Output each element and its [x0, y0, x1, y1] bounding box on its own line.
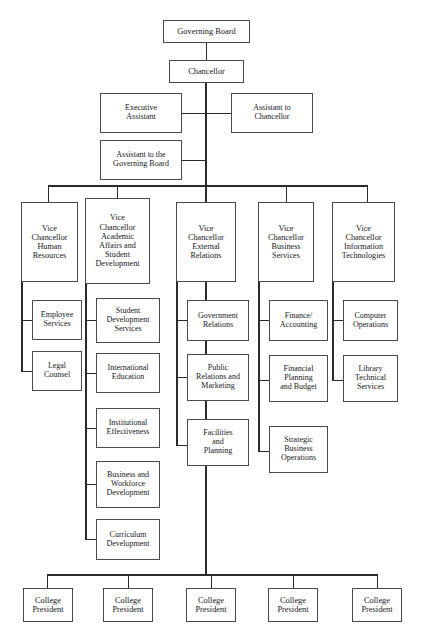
edge-college-bus: [47, 574, 378, 576]
node-college-president-5[interactable]: College President: [352, 588, 402, 622]
node-dept-computer-operations[interactable]: Computer Operations: [343, 300, 398, 341]
edge-drop-business: [286, 185, 287, 202]
node-dept-legal-counsel[interactable]: Legal Counsel: [32, 351, 82, 391]
edge-drop-hr: [48, 185, 49, 202]
edge-stub-hr-2: [21, 371, 32, 372]
edge-drop-college-5: [377, 574, 378, 588]
node-chancellor[interactable]: Chancellor: [169, 60, 244, 83]
node-dept-curriculum-development[interactable]: Curriculum Development: [96, 519, 160, 560]
node-college-president-2[interactable]: College President: [103, 588, 153, 622]
edge-assistant-to-chancellor: [206, 113, 231, 114]
node-vc-business-services[interactable]: Vice Chancellor Business Services: [258, 202, 314, 282]
edge-stub-it-1: [332, 320, 343, 321]
edge-stub-hr-1: [21, 320, 32, 321]
node-governing-board[interactable]: Governing Board: [163, 20, 250, 43]
node-assistant-to-chancellor[interactable]: Assistant to Chancellor: [231, 93, 313, 133]
node-dept-government-relations[interactable]: Government Relations: [187, 300, 249, 341]
edge-spine-external: [176, 282, 178, 446]
node-dept-finance-accounting[interactable]: Finance/ Accounting: [269, 300, 328, 341]
edge-stub-academic-2: [85, 373, 96, 374]
node-dept-public-relations-marketing[interactable]: Public Relations and Marketing: [187, 354, 249, 401]
node-dept-facilities-planning[interactable]: Facilities and Planning: [187, 419, 249, 466]
edge-board-to-chancellor: [206, 43, 207, 60]
edge-spine-hr: [21, 282, 23, 372]
edge-drop-academic: [117, 185, 118, 198]
edge-drop-college-2: [128, 574, 129, 588]
org-chart-canvas: Governing Board Chancellor Executive Ass…: [0, 0, 421, 638]
node-dept-institutional-effectiveness[interactable]: Institutional Effectiveness: [96, 408, 160, 448]
edge-spine-academic: [85, 284, 87, 540]
edge-stub-external-3: [176, 445, 187, 446]
edge-stub-business-2: [258, 380, 269, 381]
node-dept-student-development-services[interactable]: Student Development Services: [96, 298, 160, 343]
edge-drop-college-3: [211, 574, 212, 588]
edge-exec-assistant: [182, 113, 206, 114]
edge-drop-college-1: [47, 574, 48, 588]
node-dept-international-education[interactable]: International Education: [96, 353, 160, 393]
node-dept-strategic-business-operations[interactable]: Strategic Business Operations: [269, 426, 328, 473]
edge-stub-academic-4: [85, 484, 96, 485]
edge-spine-it: [332, 282, 334, 381]
node-dept-employee-services[interactable]: Employee Services: [32, 300, 82, 340]
edge-assistant-governing-board: [182, 160, 206, 161]
node-vc-human-resources[interactable]: Vice Chancellor Human Resources: [21, 202, 78, 282]
node-college-president-4[interactable]: College President: [268, 588, 318, 622]
edge-spine-business: [258, 282, 260, 452]
node-dept-financial-planning-budget[interactable]: Financial Planning and Budget: [269, 355, 328, 402]
node-dept-business-workforce-development[interactable]: Business and Workforce Development: [96, 461, 160, 508]
edge-drop-it: [367, 185, 368, 202]
node-vc-information-technologies[interactable]: Vice Chancellor Information Technologies: [332, 202, 395, 282]
node-executive-assistant[interactable]: Executive Assistant: [100, 93, 182, 133]
node-dept-library-technical-services[interactable]: Library Technical Services: [343, 355, 398, 402]
edge-stub-academic-5: [85, 539, 96, 540]
edge-stub-academic-3: [85, 428, 96, 429]
edge-stub-business-1: [258, 320, 269, 321]
node-college-president-3[interactable]: College President: [186, 588, 236, 622]
edge-chancellor-trunk: [205, 83, 207, 186]
edge-stub-external-1: [176, 320, 187, 321]
edge-division-bus: [48, 185, 368, 187]
edge-stub-external-2: [176, 377, 187, 378]
node-vc-academic-affairs[interactable]: Vice Chancellor Academic Affairs and Stu…: [85, 198, 150, 284]
edge-stub-business-3: [258, 451, 269, 452]
edge-drop-college-4: [293, 574, 294, 588]
node-college-president-1[interactable]: College President: [23, 588, 73, 622]
edge-stub-it-2: [332, 380, 343, 381]
node-vc-external-relations[interactable]: Vice Chancellor External Relations: [176, 202, 236, 282]
node-assistant-to-governing-board[interactable]: Assistant to the Governing Board: [100, 140, 182, 180]
edge-stub-academic-1: [85, 320, 96, 321]
